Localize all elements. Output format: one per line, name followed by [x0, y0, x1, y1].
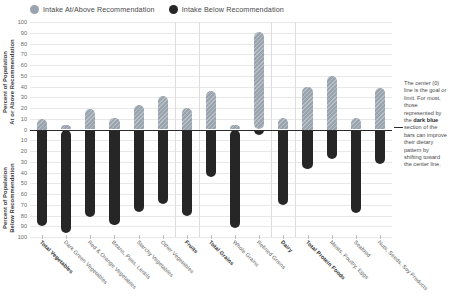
y-axis-tick-label: 50	[5, 73, 27, 79]
y-axis-tick-label: 80	[5, 213, 27, 219]
legend-label-above: Intake At/Above Recommendation	[43, 5, 155, 14]
y-axis-tick-label: 70	[5, 51, 27, 57]
bar-below-recommendation[interactable]	[134, 130, 144, 213]
x-axis-label: Nuts, Seeds, Soy Products	[377, 239, 429, 291]
bar-above-recommendation[interactable]	[278, 118, 288, 130]
bar-above-recommendation[interactable]	[375, 88, 385, 130]
bar-above-recommendation[interactable]	[351, 118, 361, 130]
y-axis-tick-label: 80	[5, 41, 27, 47]
bar-below-recommendation[interactable]	[37, 130, 47, 227]
bar-below-recommendation[interactable]	[351, 130, 361, 214]
y-axis-tick-label: 60	[5, 62, 27, 68]
y-axis-tick-label: 20	[5, 148, 27, 154]
bar-above-recommendation[interactable]	[182, 108, 192, 130]
x-axis-label: Seafood	[353, 239, 372, 258]
y-axis-tick-label: 10	[5, 116, 27, 122]
bar-above-recommendation[interactable]	[85, 109, 95, 129]
bar-below-recommendation[interactable]	[302, 130, 312, 170]
y-axis-tick-label: 70	[5, 202, 27, 208]
bar-above-recommendation[interactable]	[158, 96, 168, 129]
bar-above-recommendation[interactable]	[327, 76, 337, 130]
y-axis-tick-label: 90	[5, 30, 27, 36]
x-axis-label: Red & Orange Vegetables	[87, 239, 138, 290]
bar-below-recommendation[interactable]	[230, 130, 240, 229]
bar-below-recommendation[interactable]	[182, 130, 192, 216]
y-axis-tick-label: 90	[5, 223, 27, 229]
x-axis-label: Fruits	[184, 239, 199, 254]
bar-below-recommendation[interactable]	[85, 130, 95, 217]
x-axis-labels: Total VegetablesDark Green VegetablesRed…	[30, 239, 392, 303]
legend-item-below: Intake Below Recommendation	[169, 5, 284, 14]
bar-above-recommendation[interactable]	[254, 32, 264, 130]
x-axis-label: Dairy	[280, 239, 294, 253]
bar-above-recommendation[interactable]	[37, 119, 47, 130]
bar-above-recommendation[interactable]	[302, 87, 312, 130]
bar-below-recommendation[interactable]	[158, 130, 168, 204]
bar-above-recommendation[interactable]	[134, 105, 144, 130]
chart-legend: Intake At/Above Recommendation Intake Be…	[30, 2, 284, 16]
y-axis-tick-label: 0	[5, 127, 27, 133]
y-axis-tick-label: 100	[5, 19, 27, 25]
bar-below-recommendation[interactable]	[278, 130, 288, 205]
legend-swatch-above-icon	[30, 5, 39, 14]
x-axis-label: Dark Green Vegetables	[63, 239, 109, 285]
y-axis-tick-label: 50	[5, 180, 27, 186]
legend-item-above: Intake At/Above Recommendation	[30, 5, 155, 14]
bar-below-recommendation[interactable]	[375, 130, 385, 164]
bar-below-recommendation[interactable]	[61, 130, 71, 233]
y-axis-tick-label: 10	[5, 137, 27, 143]
legend-label-below: Intake Below Recommendation	[182, 5, 284, 14]
note-connector-rule	[394, 127, 403, 128]
bar-below-recommendation[interactable]	[206, 130, 216, 177]
y-axis-tick-label: 40	[5, 84, 27, 90]
zero-line	[30, 130, 392, 131]
y-axis-tick-label: 100	[5, 234, 27, 240]
bar-below-recommendation[interactable]	[109, 130, 119, 226]
y-axis-tick-label: 60	[5, 191, 27, 197]
note-emphasis: dark blue	[413, 117, 438, 123]
chart-plot-area: 1009080706050403020100102030405060708090…	[30, 22, 392, 237]
y-axis-tick-label: 40	[5, 170, 27, 176]
bar-below-recommendation[interactable]	[327, 130, 337, 159]
legend-swatch-below-icon	[169, 5, 178, 14]
y-axis-tick-label: 30	[5, 94, 27, 100]
y-axis-tick-label: 30	[5, 159, 27, 165]
bar-above-recommendation[interactable]	[109, 118, 119, 130]
chart-note: The center (0) line is the goal or limit…	[404, 80, 448, 169]
bar-above-recommendation[interactable]	[206, 91, 216, 130]
note-text-part2: section of the bars can improve their di…	[404, 124, 447, 167]
y-axis-tick-label: 20	[5, 105, 27, 111]
